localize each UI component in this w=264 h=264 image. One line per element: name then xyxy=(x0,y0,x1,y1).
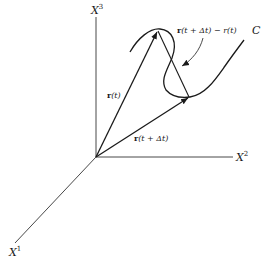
label-r-t-dt: r(t + Δt) xyxy=(134,134,168,143)
diagram-graphics xyxy=(0,0,264,264)
curve-c xyxy=(130,29,244,97)
label-curve-c: C xyxy=(252,25,260,36)
diagram-canvas: X3 X2 X1 r(t) r(t + Δt) r(t + Δt) − r(t)… xyxy=(0,0,264,264)
axis-label-x2: X2 xyxy=(236,151,248,163)
axis-x1 xyxy=(15,157,96,243)
leader-arrow xyxy=(182,38,203,66)
label-difference: r(t + Δt) − r(t) xyxy=(177,26,237,35)
axis-label-x1: X1 xyxy=(9,246,21,258)
label-r-t: r(t) xyxy=(107,91,121,100)
axis-label-x3: X3 xyxy=(91,4,103,16)
